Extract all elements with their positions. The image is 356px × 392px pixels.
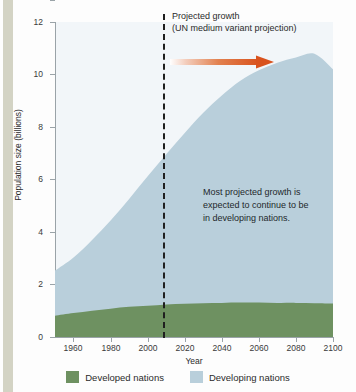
- projection-growth-label: Projected growth (UN medium variant proj…: [172, 10, 352, 34]
- x-tick-2000: [148, 337, 149, 342]
- y-axis-title: Population size (billions): [13, 75, 23, 235]
- legend-label-developing: Developing nations: [209, 372, 290, 383]
- x-tick-2060: [259, 337, 260, 342]
- legend-label-developed: Developed nations: [85, 372, 164, 383]
- x-tick-1960: [73, 337, 74, 342]
- population-growth-chart: 12 10 8 6 4 2 0 Population size (billion…: [0, 0, 356, 392]
- projection-label-line2: (UN medium variant projection): [172, 22, 352, 34]
- x-tick-1980: [111, 337, 112, 342]
- x-tick-label-1960: 1960: [53, 343, 93, 353]
- x-tick-2020: [185, 337, 186, 342]
- x-tick-2080: [296, 337, 297, 342]
- x-tick-label-2060: 2060: [239, 343, 279, 353]
- arrow-right-icon: [170, 55, 274, 69]
- inline-note-line1: Most projected growth is: [203, 186, 338, 199]
- x-tick-2100: [333, 337, 334, 342]
- y-tick-label-0: 0: [19, 332, 43, 342]
- projection-divider-line: [163, 14, 165, 338]
- x-tick-label-2000: 2000: [128, 343, 168, 353]
- chart-legend: Developed nations Developing nations: [0, 368, 356, 386]
- inline-note-line2: expected to continue to be: [203, 199, 338, 212]
- x-tick-label-2020: 2020: [165, 343, 205, 353]
- x-axis-title: Year: [55, 356, 333, 366]
- y-tick-6-spacer: [50, 0, 55, 1]
- x-tick-label-1980: 1980: [91, 343, 131, 353]
- x-tick-2040: [222, 337, 223, 342]
- x-tick-label-2100: 2100: [313, 343, 353, 353]
- developing-growth-note: Most projected growth is expected to con…: [203, 186, 338, 225]
- y-tick-0: [50, 337, 55, 338]
- inline-note-line3: in developing nations.: [203, 212, 338, 225]
- legend-item-developed: Developed nations: [66, 371, 164, 383]
- x-tick-label-2040: 2040: [202, 343, 242, 353]
- x-tick-label-2080: 2080: [276, 343, 316, 353]
- projection-label-line1: Projected growth: [172, 10, 352, 22]
- legend-swatch-developed: [66, 371, 79, 383]
- y-tick-label-12: 12: [19, 17, 43, 27]
- x-axis-line: [55, 337, 334, 338]
- y-tick-label-2: 2: [19, 279, 43, 289]
- legend-swatch-developing: [190, 371, 203, 383]
- projection-arrow-icon: [170, 55, 274, 69]
- area-series-svg: [55, 22, 333, 337]
- series-layer: [55, 22, 333, 337]
- legend-item-developing: Developing nations: [190, 371, 290, 383]
